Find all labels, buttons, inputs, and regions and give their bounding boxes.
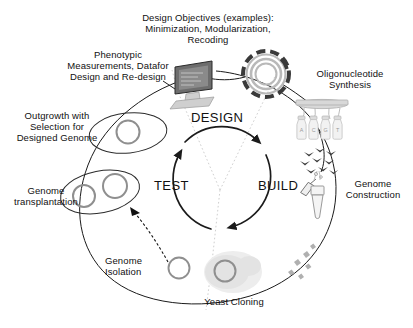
phase-label-design: DESIGN [191,110,243,125]
diagram-canvas: A C G T [0,0,413,328]
stage-label-outgrowth: Outgrowth with Selection for Designed Ge… [5,110,109,144]
dna-fragments-icon [288,244,316,280]
chevron-flock-icon [300,148,338,174]
stage-label-yeast: Yeast Cloning [188,296,280,307]
stage-label-isolation: Genome Isolation [105,255,173,277]
stage-label-oligo: Oligonucleotide Synthesis [296,68,404,90]
synthesizer-bottles-icon: A C G T [296,99,348,139]
bottle-base-label-0: A [300,127,304,133]
stage-label-construction: Genome Construction [334,178,412,200]
pipette-tube-icon [299,148,338,219]
stage-label-transplantation: Genome transplantation [0,185,94,207]
bottle-base-label-2: G [323,127,327,133]
phase-label-test: TEST [154,178,189,193]
bottle-base-label-1: C [312,127,316,133]
designed-genome-plasmid-icon [243,51,289,97]
phase-label-build: BUILD [258,178,298,193]
design-objectives-title: Design Objectives (examples): Minimizati… [118,12,298,46]
yeast-cell-icon [204,251,262,293]
stage-label-phenotypic: Phenotypic Measurements, Datafor Design … [54,49,182,83]
